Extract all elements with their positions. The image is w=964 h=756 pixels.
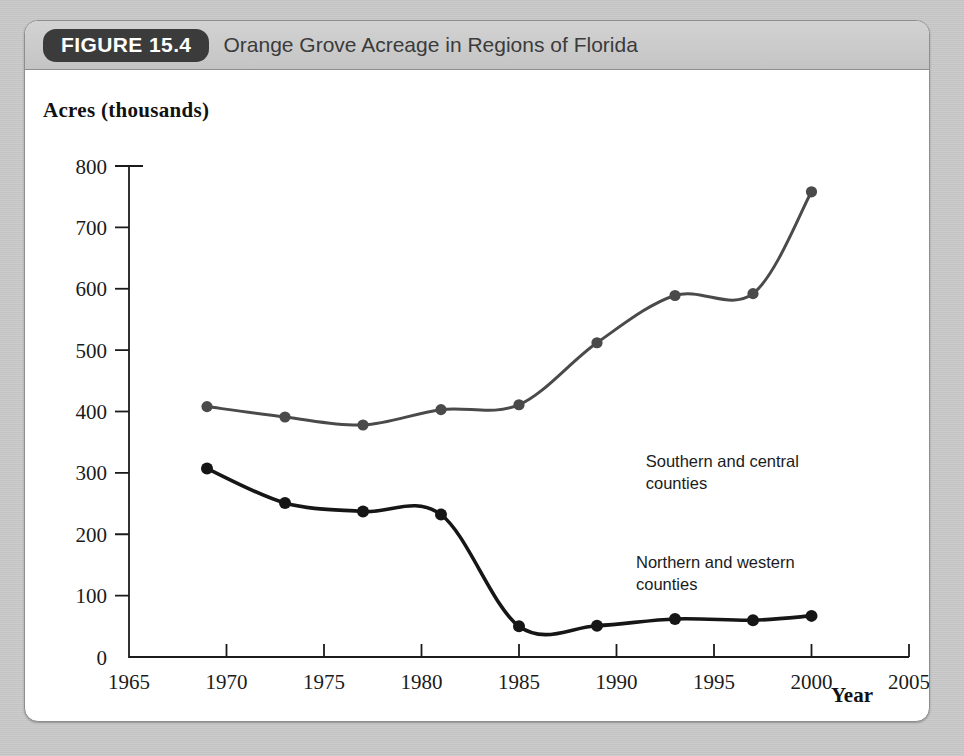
series-line-southern-central — [207, 192, 812, 425]
x-tick-label: 1980 — [401, 670, 443, 694]
data-point — [279, 497, 291, 509]
x-tick-label: 1995 — [693, 670, 735, 694]
x-tick-label: 2000 — [791, 670, 833, 694]
line-chart: 0100200300400500600700800196519701975198… — [25, 69, 929, 720]
data-point — [357, 419, 368, 430]
y-tick-label: 700 — [76, 216, 108, 240]
x-tick-label: 2005 — [888, 670, 929, 694]
data-point — [201, 463, 213, 475]
x-tick-label: 1990 — [596, 670, 638, 694]
y-tick-label: 200 — [76, 523, 108, 547]
data-point — [806, 186, 817, 197]
plot-area: Acres (thousands) Year 01002003004005006… — [25, 69, 929, 720]
y-tick-label: 400 — [76, 400, 108, 424]
series-annotation-northern-western: counties — [636, 575, 697, 593]
data-point — [279, 411, 290, 422]
figure-number-badge: FIGURE 15.4 — [43, 29, 209, 62]
data-point — [669, 290, 680, 301]
data-point — [201, 401, 212, 412]
series-annotation-northern-western: Northern and western — [636, 553, 795, 571]
x-tick-label: 1970 — [206, 670, 248, 694]
data-point — [747, 288, 758, 299]
y-tick-label: 600 — [76, 277, 108, 301]
data-point — [806, 610, 818, 622]
y-tick-label: 300 — [76, 461, 108, 485]
series-annotation-southern-central: Southern and central — [646, 452, 799, 470]
data-point — [591, 620, 603, 632]
data-point — [435, 404, 446, 415]
x-tick-label: 1985 — [498, 670, 540, 694]
y-tick-label: 100 — [76, 584, 108, 608]
y-tick-label: 500 — [76, 339, 108, 363]
x-tick-label: 1975 — [303, 670, 345, 694]
data-point — [435, 509, 447, 521]
series-annotation-southern-central: counties — [646, 474, 707, 492]
y-tick-label: 800 — [76, 155, 108, 179]
data-point — [357, 506, 369, 518]
figure-frame: FIGURE 15.4 Orange Grove Acreage in Regi… — [24, 20, 930, 722]
series-line-northern-western — [207, 469, 812, 635]
data-point — [669, 613, 681, 625]
data-point — [513, 399, 524, 410]
x-tick-label: 1965 — [108, 670, 150, 694]
figure-header: FIGURE 15.4 Orange Grove Acreage in Regi… — [25, 21, 929, 70]
data-point — [591, 337, 602, 348]
y-tick-label: 0 — [97, 646, 108, 670]
data-point — [747, 614, 759, 626]
data-point — [513, 620, 525, 632]
figure-title: Orange Grove Acreage in Regions of Flori… — [223, 33, 637, 57]
